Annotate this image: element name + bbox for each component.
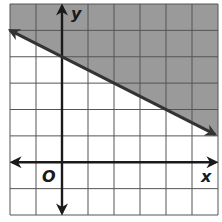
origin-label: O (42, 167, 56, 186)
coordinate-graph: y x O (0, 0, 222, 222)
x-axis-label: x (200, 167, 212, 186)
y-axis-label: y (71, 4, 82, 23)
